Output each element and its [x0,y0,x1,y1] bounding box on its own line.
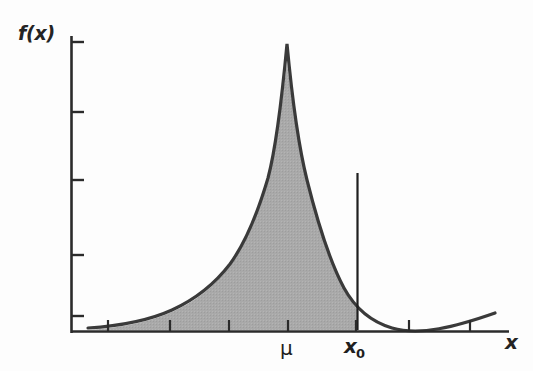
x-axis-label: x [505,330,518,354]
plot-canvas [0,0,533,371]
y-axis-label: f(x) [18,22,55,44]
shaded-area [88,63,372,330]
x0-subscript-text: 0 [356,346,365,361]
y-axis-ticks [71,42,84,316]
mu-annotation-label: μ [280,336,293,360]
x0-annotation-label: x0 [344,334,365,361]
distribution-figure: f(x) x μ x0 [0,0,533,371]
x0-base-text: x [344,334,357,358]
